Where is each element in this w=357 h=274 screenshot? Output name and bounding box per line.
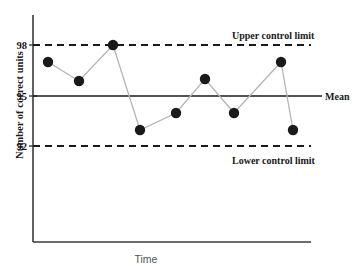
data-point xyxy=(276,57,286,67)
data-point xyxy=(108,40,118,50)
data-point xyxy=(200,74,210,84)
y-axis-title: Number of correct units xyxy=(14,51,25,159)
data-point xyxy=(135,125,145,135)
upper-control-limit-label: Upper control limit xyxy=(232,30,315,41)
data-point xyxy=(288,125,298,135)
data-point xyxy=(43,57,53,67)
chart-canvas: 98 95 92 Upper control limit Mean Lower … xyxy=(0,0,357,274)
mean-label: Mean xyxy=(325,91,350,102)
data-point xyxy=(74,76,84,86)
data-connector-line xyxy=(48,45,293,130)
data-point xyxy=(171,108,181,118)
lower-control-limit-label: Lower control limit xyxy=(232,155,316,166)
control-chart: 98 95 92 Upper control limit Mean Lower … xyxy=(0,0,357,274)
y-tick-label-98: 98 xyxy=(17,40,28,51)
data-point xyxy=(229,108,239,118)
x-axis-title: Time xyxy=(135,253,158,265)
